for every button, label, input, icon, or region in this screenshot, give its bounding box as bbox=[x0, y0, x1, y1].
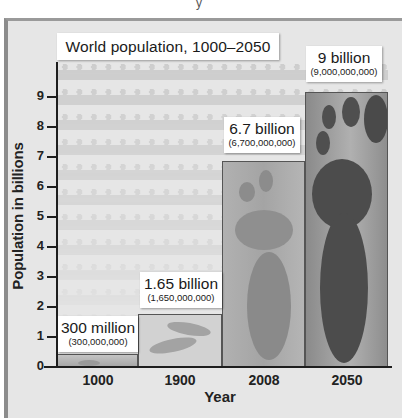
value-label-sub: (6,700,000,000) bbox=[224, 137, 300, 148]
x-axis-title: Year bbox=[180, 388, 260, 405]
x-tick-label: 1000 bbox=[56, 372, 140, 388]
value-label-sub: (9,000,000,000) bbox=[306, 66, 382, 77]
y-tick bbox=[47, 96, 57, 98]
chart-title-text: World population, 1000–2050 bbox=[66, 38, 271, 56]
value-label-2050: 9 billion (9,000,000,000) bbox=[306, 46, 382, 82]
value-label-main: 6.7 billion bbox=[224, 120, 300, 137]
value-label-1900: 1.65 billion (1,650,000,000) bbox=[140, 272, 222, 308]
y-tick bbox=[47, 306, 57, 308]
footprint-icon bbox=[342, 97, 360, 127]
value-label-main: 1.65 billion bbox=[140, 275, 222, 292]
x-axis-line bbox=[44, 366, 392, 368]
y-tick bbox=[47, 366, 57, 368]
footprint-icon bbox=[247, 252, 291, 360]
y-tick bbox=[47, 336, 57, 338]
y-tick bbox=[47, 246, 57, 248]
value-label-main: 9 billion bbox=[306, 49, 382, 66]
footprint-icon bbox=[316, 131, 330, 155]
value-label-1000: 300 million (300,000,000) bbox=[58, 316, 138, 352]
y-axis-line bbox=[56, 62, 58, 368]
value-label-sub: (300,000,000) bbox=[58, 336, 138, 347]
footprint-icon bbox=[364, 95, 388, 143]
y-tick-label: 2 bbox=[30, 298, 44, 313]
footprint-icon bbox=[239, 182, 255, 202]
x-tick-label: 1900 bbox=[138, 372, 222, 388]
y-tick-label: 3 bbox=[30, 268, 44, 283]
value-label-sub: (1,650,000,000) bbox=[140, 292, 222, 303]
y-tick bbox=[47, 276, 57, 278]
cropped-header-fragment: y bbox=[196, 0, 202, 10]
footprint-icon bbox=[235, 210, 293, 250]
y-tick bbox=[47, 126, 57, 128]
y-tick-label: 5 bbox=[30, 208, 44, 223]
y-tick-label: 0 bbox=[30, 358, 44, 373]
footprint-icon bbox=[166, 319, 211, 338]
value-label-2008: 6.7 billion (6,700,000,000) bbox=[224, 117, 300, 153]
y-axis-title-text: Population in billions bbox=[9, 142, 26, 289]
bar-1900 bbox=[138, 314, 222, 367]
y-tick-label: 4 bbox=[30, 238, 44, 253]
y-tick bbox=[47, 216, 57, 218]
bar-2008 bbox=[222, 161, 305, 367]
x-tick-label: 2008 bbox=[222, 372, 306, 388]
bar-2050 bbox=[305, 92, 388, 367]
y-tick-label: 1 bbox=[30, 328, 44, 343]
value-label-main: 300 million bbox=[58, 319, 138, 336]
footprint-icon bbox=[322, 105, 336, 129]
y-tick-label: 7 bbox=[30, 148, 44, 163]
y-tick-label: 6 bbox=[30, 178, 44, 193]
y-tick bbox=[47, 186, 57, 188]
y-tick-label: 8 bbox=[30, 118, 44, 133]
chart-title: World population, 1000–2050 bbox=[57, 33, 279, 60]
footprint-icon bbox=[320, 213, 368, 363]
y-tick bbox=[47, 156, 57, 158]
y-tick-label: 9 bbox=[30, 88, 44, 103]
footprint-icon bbox=[148, 334, 198, 357]
x-tick-label: 2050 bbox=[305, 372, 389, 388]
footprint-icon bbox=[259, 170, 273, 192]
